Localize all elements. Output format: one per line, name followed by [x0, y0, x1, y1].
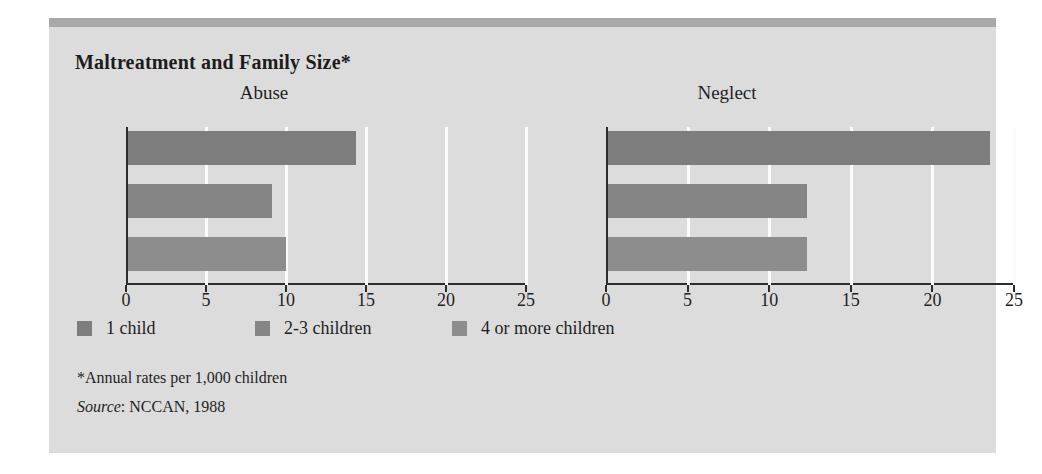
- x-axis-tick-label: 20: [437, 290, 455, 311]
- legend-label: 1 child: [106, 318, 156, 339]
- legend-swatch-icon: [452, 321, 467, 336]
- x-axis-tick-label: 0: [602, 290, 611, 311]
- gridline: [365, 127, 368, 285]
- legend-label: 4 or more children: [481, 318, 614, 339]
- x-axis-tick-label: 15: [357, 290, 375, 311]
- x-axis-tick-label: 10: [760, 290, 778, 311]
- chart-figure: Maltreatment and Family Size* Abuse 0510…: [49, 18, 996, 453]
- plot-area-abuse: 0510152025: [126, 127, 526, 285]
- plot-area-neglect: 0510152025: [606, 127, 1014, 285]
- legend-item: 4 or more children: [452, 318, 614, 339]
- bar-abuse-series-0: [128, 131, 356, 165]
- x-axis-tick-label: 15: [842, 290, 860, 311]
- source-label: Source: [77, 398, 121, 415]
- panel-title-abuse: Abuse: [49, 82, 479, 104]
- gridline: [525, 127, 528, 285]
- chart-legend: 1 child2-3 children4 or more children: [77, 318, 577, 342]
- legend-item: 2-3 children: [255, 318, 371, 339]
- gridline: [1013, 127, 1016, 285]
- bar-abuse-series-2: [128, 237, 286, 271]
- bar-neglect-series-0: [608, 131, 990, 165]
- legend-item: 1 child: [77, 318, 156, 339]
- legend-swatch-icon: [255, 321, 270, 336]
- source-value: : NCCAN, 1988: [121, 398, 225, 415]
- figure-top-rule: [49, 18, 996, 27]
- legend-swatch-icon: [77, 321, 92, 336]
- panel-title-neglect: Neglect: [527, 82, 927, 104]
- bar-neglect-series-1: [608, 184, 807, 218]
- x-axis-tick-label: 5: [202, 290, 211, 311]
- gridline: [445, 127, 448, 285]
- x-axis-tick-label: 25: [1005, 290, 1023, 311]
- bar-abuse-series-1: [128, 184, 272, 218]
- figure-footnote: *Annual rates per 1,000 children: [77, 369, 287, 387]
- bar-neglect-series-2: [608, 237, 807, 271]
- legend-label: 2-3 children: [284, 318, 371, 339]
- x-axis-line-neglect: [606, 283, 1014, 285]
- x-axis-tick-label: 10: [277, 290, 295, 311]
- x-axis-tick-label: 25: [517, 290, 535, 311]
- x-axis-tick-label: 20: [923, 290, 941, 311]
- x-axis-tick-label: 0: [122, 290, 131, 311]
- figure-source: Source: NCCAN, 1988: [77, 398, 225, 416]
- figure-title: Maltreatment and Family Size*: [75, 51, 351, 74]
- x-axis-tick-label: 5: [683, 290, 692, 311]
- x-axis-line-abuse: [126, 283, 526, 285]
